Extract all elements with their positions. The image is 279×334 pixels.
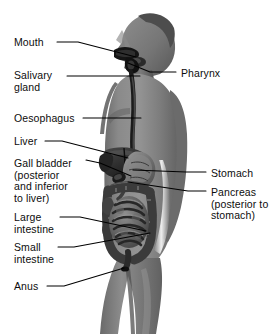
label-salivary-gland: Salivary gland (14, 70, 52, 93)
label-liver-line-0: Liver (14, 136, 37, 148)
label-small-intestine-line-0: Small (14, 242, 54, 254)
label-small-intestine-line-1: intestine (14, 254, 54, 266)
label-gall-bladder-line-0: Gall bladder (14, 158, 72, 170)
label-pancreas: Pancreas (posterior to stomach) (211, 187, 268, 222)
label-pancreas-line-0: Pancreas (211, 187, 268, 199)
label-gall-bladder: Gall bladder (posterior and inferior to … (14, 158, 72, 204)
label-salivary-gland-line-0: Salivary (14, 70, 52, 82)
label-small-intestine: Small intestine (14, 242, 54, 265)
head-silhouette (116, 13, 175, 78)
label-oesophagus-line-0: Oesophagus (14, 113, 75, 125)
label-mouth-line-0: Mouth (14, 37, 44, 49)
label-oesophagus: Oesophagus (14, 113, 75, 125)
label-anus: Anus (14, 281, 38, 293)
label-salivary-gland-line-1: gland (14, 82, 52, 94)
label-large-intestine-line-1: intestine (14, 224, 54, 236)
label-large-intestine-line-0: Large (14, 212, 54, 224)
legs-silhouette (100, 258, 162, 334)
label-stomach-line-0: Stomach (211, 168, 253, 180)
label-anus-line-0: Anus (14, 281, 38, 293)
digestive-system-figure: Mouth Salivary gland Oesophagus Liver Ga… (0, 0, 279, 334)
label-gall-bladder-line-3: to liver) (14, 193, 72, 205)
label-mouth: Mouth (14, 37, 44, 49)
label-pharynx: Pharynx (181, 68, 220, 80)
label-pharynx-line-0: Pharynx (181, 68, 220, 80)
small-intestine-organ (109, 196, 149, 248)
label-large-intestine: Large intestine (14, 212, 54, 235)
label-liver: Liver (14, 136, 37, 148)
label-stomach: Stomach (211, 168, 253, 180)
label-pancreas-line-2: stomach) (211, 210, 268, 222)
oesophagus-organ (131, 72, 135, 156)
